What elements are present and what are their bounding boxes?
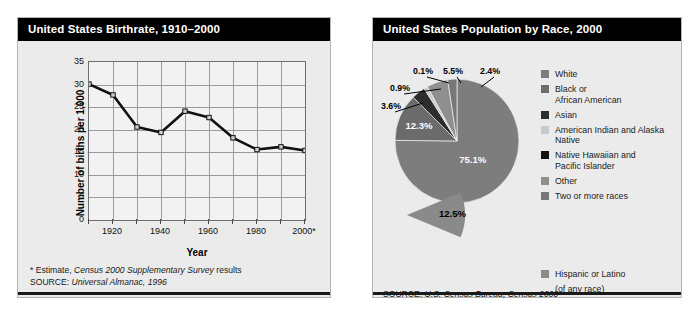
legend-color-swatch [541,126,549,134]
x-tick-mark [280,219,281,224]
hispanic-legend-entry: Hispanic or Latino (of any race) [541,269,681,294]
pie-chart: 75.1%12.3%0.9%0.1%3.6%5.5%2.4%12.5% [381,63,546,238]
hispanic-legend-label: Hispanic or Latino [555,269,625,280]
birthrate-panel-title: United States Birthrate, 1910–2000 [18,18,330,41]
pie-callout-other: 5.5% [443,66,463,76]
legend-item: American Indian and Alaska Native [541,125,681,146]
x-tick-mark [88,219,89,224]
legend-item: Two or more races [541,191,681,202]
legend-item: Black orAfrican American [541,84,681,105]
hispanic-color-swatch [541,270,549,278]
x-tick-mark [112,219,113,224]
y-tick-label: 30 [66,79,84,89]
panel-bottom-rule [18,292,330,295]
footnote-prefix: * Estimate, [30,265,74,275]
legend-item-label: Asian [555,110,577,121]
x-tick-label: 2000* [284,226,324,236]
legend-item-label: Black orAfrican American [555,84,622,105]
birthrate-line-series [89,62,305,220]
legend-color-swatch [541,151,549,159]
y-tick-label: 10 [66,169,84,179]
source-citation: Universal Almanac, 1996 [72,277,167,287]
data-point-marker [135,125,139,129]
hispanic-legend-row: Hispanic or Latino [541,269,681,280]
data-point-marker [89,82,91,86]
legend-item-label: Two or more races [555,191,628,202]
legend-color-swatch [541,111,549,119]
y-tick-label: 35 [66,56,84,66]
data-point-marker [207,115,211,119]
x-tick-mark [160,219,161,224]
legend-item-label: White [555,69,578,80]
footnote-suffix: results [214,265,242,275]
legend-item: Native Hawaiian andPacific Islander [541,150,681,171]
pie-callout-two-or-more: 2.4% [480,66,500,76]
x-axis-title: Year [88,247,306,258]
race-chart-area: 75.1%12.3%0.9%0.1%3.6%5.5%2.4%12.5% Whit… [373,41,681,297]
data-point-marker [255,147,259,151]
x-tick-mark [232,219,233,224]
pie-callout-native-hawaiian: 0.1% [413,66,433,76]
x-tick-label: 1940 [140,226,180,236]
birthrate-chart-area: Number of births per 1,000 population 05… [18,41,330,297]
pie-callout-asian: 3.6% [381,101,401,111]
legend-color-swatch [541,192,549,200]
x-tick-mark [304,219,305,224]
x-tick-mark [256,219,257,224]
x-tick-mark [208,219,209,224]
legend-color-swatch [541,177,549,185]
race-panel-bottom-rule [373,292,681,295]
y-tick-label: 0 [66,214,84,224]
legend-item: White [541,69,681,80]
pie-callout-american-indian: 0.9% [390,83,410,93]
y-tick-label: 5 [66,191,84,201]
x-tick-label: 1980 [236,226,276,236]
pie-label-white: 75.1% [459,154,486,165]
x-tick-mark [136,219,137,224]
legend-color-swatch [541,70,549,78]
data-point-marker [111,93,115,97]
estimate-footnote: * Estimate, Census 2000 Supplementary Su… [30,265,322,277]
birthrate-panel: United States Birthrate, 1910–2000 Numbe… [17,17,331,298]
race-legend: WhiteBlack orAfrican AmericanAsianAmeric… [541,69,681,206]
x-tick-mark [184,219,185,224]
birthrate-footnotes: * Estimate, Census 2000 Supplementary Su… [30,265,322,288]
data-point-marker [303,148,305,152]
source-prefix: SOURCE: [30,277,72,287]
legend-item-label: American Indian and Alaska Native [555,125,681,146]
data-point-marker [159,130,163,134]
data-point-marker [279,145,283,149]
legend-color-swatch [541,85,549,93]
data-point-marker [183,109,187,113]
hispanic-wedge-label: 12.5% [439,208,466,219]
race-panel-title: United States Population by Race, 2000 [373,18,681,41]
y-tick-label: 20 [66,124,84,134]
legend-item-label: Native Hawaiian andPacific Islander [555,150,636,171]
legend-item: Asian [541,110,681,121]
pie-label-black: 12.3% [406,120,433,131]
birthrate-plot-region [88,61,306,221]
birthrate-source: SOURCE: Universal Almanac, 1996 [30,277,322,289]
y-tick-label: 15 [66,146,84,156]
legend-item: Other [541,176,681,187]
y-tick-label: 25 [66,101,84,111]
data-point-marker [231,136,235,140]
footnote-citation: Census 2000 Supplementary Survey [74,265,214,275]
x-tick-label: 1960 [188,226,228,236]
race-panel: United States Population by Race, 2000 7… [372,17,682,298]
legend-item-label: Other [555,176,577,187]
x-tick-label: 1920 [92,226,132,236]
